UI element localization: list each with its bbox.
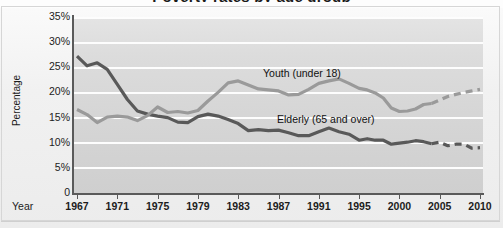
y-axis-title: Percentage [11,56,22,146]
y-tick-label-5: 5% [10,161,70,173]
series-label-youth: Youth (under 18) [263,67,341,79]
x-tick-label-1983: 1983 [217,200,259,212]
x-tick-mark-1995 [359,193,360,199]
x-tick-label-1991: 1991 [298,200,340,212]
projection-line-youth [432,89,480,103]
x-tick-mark-1987 [279,193,280,199]
x-tick-label-1975: 1975 [137,200,179,212]
x-tick-label-1967: 1967 [56,200,98,212]
x-tick-mark-1983 [238,193,239,199]
data-line-elderly [77,56,432,144]
x-tick-label-2000: 2000 [378,200,420,212]
x-tick-mark-1979 [198,193,199,199]
x-tick-label-1995: 1995 [338,200,380,212]
x-tick-mark-1967 [77,193,78,199]
x-tick-label-2010: 2010 [459,200,501,212]
x-tick-mark-2010 [480,193,481,199]
data-lines [0,0,503,228]
x-tick-mark-1991 [319,193,320,199]
y-tick-label-0: 0 [10,186,70,198]
x-tick-label-1987: 1987 [258,200,300,212]
x-tick-mark-2000 [399,193,400,199]
plot-area-wrapper: 35%30%25%20%15%10%5%0 196719711975197919… [0,0,503,228]
x-tick-label-1971: 1971 [96,200,138,212]
series-label-elderly: Elderly (65 and over) [277,113,374,125]
x-tick-label-2005: 2005 [419,200,461,212]
y-tick-label-30: 30% [10,35,70,47]
x-tick-mark-1971 [117,193,118,199]
x-tick-mark-2005 [440,193,441,199]
x-tick-label-1979: 1979 [177,200,219,212]
y-tick-label-35: 35% [10,10,70,22]
chart-figure: Poverty rates by age group 35%30%25%20%1… [0,0,503,228]
x-axis-title: Year [12,200,33,212]
x-tick-mark-1975 [158,193,159,199]
projection-line-elderly [432,142,480,148]
